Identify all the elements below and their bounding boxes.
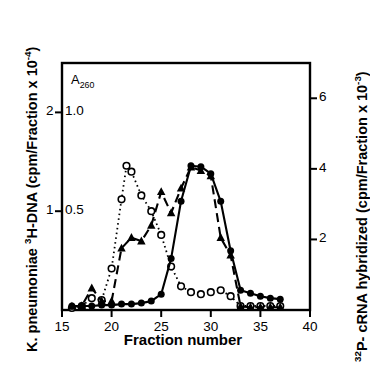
y-axis-right-label: 32P- cRNA hybridized (cpm/Fraction x 10-… <box>352 71 370 362</box>
data-point <box>277 296 284 303</box>
data-point <box>108 265 115 272</box>
data-series-layer <box>68 162 285 311</box>
data-point <box>148 298 155 305</box>
data-point <box>88 284 96 292</box>
data-point <box>128 168 135 175</box>
data-point <box>247 290 254 297</box>
y-right-tick-label: 2 <box>319 230 327 245</box>
x-tick-label: 30 <box>194 319 228 334</box>
ylabel-right-exponent: -3 <box>352 76 363 85</box>
data-point <box>157 187 165 195</box>
ylabel-right-end: ) <box>354 71 370 76</box>
y-axis-left-label: K. pneumoniae 3H-DNA (cpm/Fraction x 10-… <box>22 47 40 352</box>
data-point <box>188 289 195 296</box>
data-point <box>158 291 165 298</box>
data-point <box>178 198 185 205</box>
a260-annotation: A260 <box>71 72 94 90</box>
y-left-outer-tick-label: 1 <box>46 202 54 217</box>
y-left-inner-tick-label: 0.5 <box>65 202 84 217</box>
ylabel-left-end: ) <box>24 47 40 52</box>
axis-ticks <box>55 98 317 317</box>
data-point <box>118 196 125 203</box>
series-2 <box>68 162 285 310</box>
data-point <box>167 208 175 216</box>
data-point <box>128 301 135 308</box>
data-point <box>158 232 165 239</box>
data-point <box>88 303 95 310</box>
data-point <box>178 283 185 290</box>
y-right-tick-label: 6 <box>319 89 327 104</box>
data-point <box>138 192 145 199</box>
x-tick-label: 25 <box>144 319 178 334</box>
data-point <box>88 295 95 302</box>
data-point <box>237 287 244 294</box>
a260-letter: A <box>71 72 80 87</box>
data-point <box>147 221 155 229</box>
ylabel-right-superscript: 32 <box>352 351 363 362</box>
a260-subscript: 260 <box>80 80 95 90</box>
data-point <box>267 295 274 302</box>
series-1 <box>68 162 283 309</box>
y-left-outer-tick-label: 2 <box>46 103 54 118</box>
data-point <box>257 293 264 300</box>
x-tick-label: 15 <box>45 319 79 334</box>
x-tick-label: 20 <box>95 319 129 334</box>
data-point <box>198 291 205 298</box>
data-point <box>208 289 215 296</box>
data-point <box>217 287 224 294</box>
data-point <box>127 233 135 241</box>
y-left-inner-tick-label: 1.0 <box>65 103 84 118</box>
ylabel-left-exponent: -4 <box>22 51 33 60</box>
ylabel-left-superscript: 3 <box>22 239 33 244</box>
data-point <box>168 255 175 262</box>
series-0 <box>69 162 284 311</box>
data-point <box>118 301 125 308</box>
ylabel-right-middle: P- cRNA hybridized (cpm/Fraction x 10 <box>354 85 370 351</box>
y-right-tick-label: 4 <box>319 160 327 175</box>
data-point <box>216 233 224 241</box>
data-point <box>107 297 115 305</box>
x-tick-label: 40 <box>293 319 327 334</box>
data-point <box>217 198 224 205</box>
data-point <box>227 293 234 300</box>
x-tick-label: 35 <box>243 319 277 334</box>
data-point <box>148 208 155 215</box>
data-point <box>138 300 145 307</box>
data-point <box>123 162 130 169</box>
ylabel-left-middle: H-DNA (cpm/Fraction x 10 <box>24 60 40 238</box>
